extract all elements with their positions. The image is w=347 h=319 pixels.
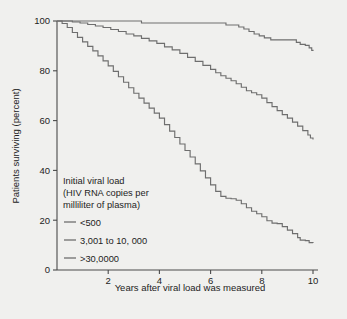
y-tick-label: 80 — [39, 65, 50, 76]
chart-canvas: 020406080100 246810 Years after viral lo… — [0, 0, 347, 319]
y-tick-label: 20 — [39, 215, 50, 226]
y-tick-label: 60 — [39, 115, 50, 126]
y-tick-label: 100 — [34, 15, 50, 26]
survival-curve-figure: 020406080100 246810 Years after viral lo… — [0, 0, 347, 319]
legend-item-label: >30,0000 — [80, 254, 119, 264]
legend-item-label: 3,001 to 10, 000 — [80, 236, 147, 246]
y-axis-title: Patients surviving (percent) — [10, 88, 21, 203]
chart-background — [0, 0, 347, 319]
legend-title-line-3: milliliter of plasma) — [63, 200, 140, 210]
y-tick-label: 40 — [39, 165, 50, 176]
x-tick-label: 10 — [308, 275, 319, 286]
legend-title-line-1: Initial viral load — [63, 176, 125, 186]
legend-title-line-2: (HIV RNA copies per — [63, 188, 149, 198]
x-axis-title: Years after viral load was measured — [115, 282, 266, 293]
legend-item-label: <500 — [80, 218, 101, 228]
y-tick-label: 0 — [45, 264, 50, 275]
x-tick-label: 2 — [106, 275, 111, 286]
